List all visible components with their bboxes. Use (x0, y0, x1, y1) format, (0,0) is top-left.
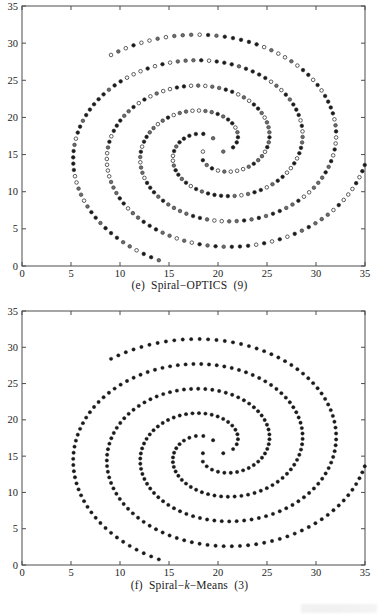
data-point (235, 169, 239, 173)
data-point (255, 347, 258, 350)
data-point (284, 206, 288, 210)
data-point (184, 363, 187, 366)
data-point (307, 377, 310, 380)
data-point (178, 141, 182, 145)
data-point (119, 80, 123, 84)
data-point (206, 244, 210, 248)
data-point (281, 175, 285, 179)
data-point (142, 252, 146, 256)
data-point (334, 444, 337, 447)
data-point (263, 150, 267, 154)
data-point (250, 518, 253, 521)
data-point (284, 396, 287, 399)
data-point (73, 476, 76, 479)
data-point (235, 470, 238, 473)
data-point (320, 176, 324, 180)
y-tick-label: 0 (13, 560, 18, 571)
data-point (104, 526, 107, 529)
data-point (293, 232, 297, 236)
data-point (140, 41, 144, 45)
data-point (140, 345, 143, 348)
data-point (72, 451, 75, 454)
y-tick-label: 35 (8, 306, 19, 317)
data-point (237, 368, 240, 371)
data-point (191, 514, 194, 517)
data-point (149, 555, 152, 558)
data-point (172, 416, 175, 419)
data-point (295, 411, 298, 414)
data-point (268, 438, 271, 441)
data-point (236, 438, 239, 441)
data-point (113, 387, 116, 390)
data-point (257, 376, 260, 379)
data-point (207, 363, 210, 366)
data-point (281, 476, 284, 479)
data-point (108, 476, 111, 479)
data-point (172, 149, 176, 153)
data-point (182, 439, 185, 442)
data-point (323, 94, 327, 98)
data-point (198, 33, 202, 37)
data-point (76, 131, 80, 135)
data-point (216, 470, 219, 473)
data-point (270, 48, 274, 52)
data-point (138, 155, 142, 159)
data-point (189, 485, 192, 488)
data-point (226, 194, 230, 198)
data-point (175, 536, 178, 539)
x-tick-label: 20 (213, 268, 224, 278)
data-point (221, 150, 225, 154)
data-point (233, 194, 237, 198)
data-point (156, 425, 159, 428)
data-point (109, 357, 112, 360)
data-point (236, 135, 240, 139)
caption-main-post-f: −Means (190, 579, 228, 591)
data-point (252, 162, 256, 166)
data-point (333, 420, 336, 423)
data-point (205, 518, 208, 521)
data-point (139, 452, 142, 455)
data-point (213, 519, 216, 522)
data-point (108, 442, 111, 445)
data-point (297, 500, 300, 503)
data-point (181, 33, 185, 37)
y-tick-label: 35 (8, 1, 19, 12)
data-point (332, 208, 336, 212)
data-point (72, 149, 76, 153)
y-tick-label: 15 (8, 149, 19, 160)
data-point (327, 165, 331, 169)
data-point (182, 388, 185, 391)
data-point (172, 206, 176, 210)
data-point (142, 442, 145, 445)
data-point (266, 447, 269, 450)
data-point (135, 548, 138, 551)
data-point (77, 488, 80, 491)
data-point (94, 216, 98, 220)
data-point (226, 420, 229, 423)
data-point (178, 414, 181, 417)
data-point (317, 482, 320, 485)
data-point (202, 132, 206, 136)
x-tick-label: 10 (115, 268, 126, 278)
data-point (125, 379, 128, 382)
data-point (233, 495, 236, 498)
data-point (74, 137, 78, 141)
data-point (112, 129, 116, 133)
data-point (172, 113, 176, 117)
data-point (115, 124, 119, 128)
data-point (246, 544, 249, 547)
data-point (331, 455, 334, 458)
data-point (307, 191, 311, 195)
data-point (142, 220, 146, 224)
data-point (132, 72, 136, 76)
data-point (172, 451, 175, 454)
data-point (106, 447, 109, 450)
x-tick-label: 5 (68, 567, 73, 577)
data-point (230, 545, 233, 548)
data-point (255, 43, 259, 47)
data-point (334, 130, 338, 134)
data-point (189, 387, 192, 390)
data-point (72, 168, 76, 172)
y-tick-label: 30 (8, 38, 19, 49)
data-point (326, 100, 330, 104)
